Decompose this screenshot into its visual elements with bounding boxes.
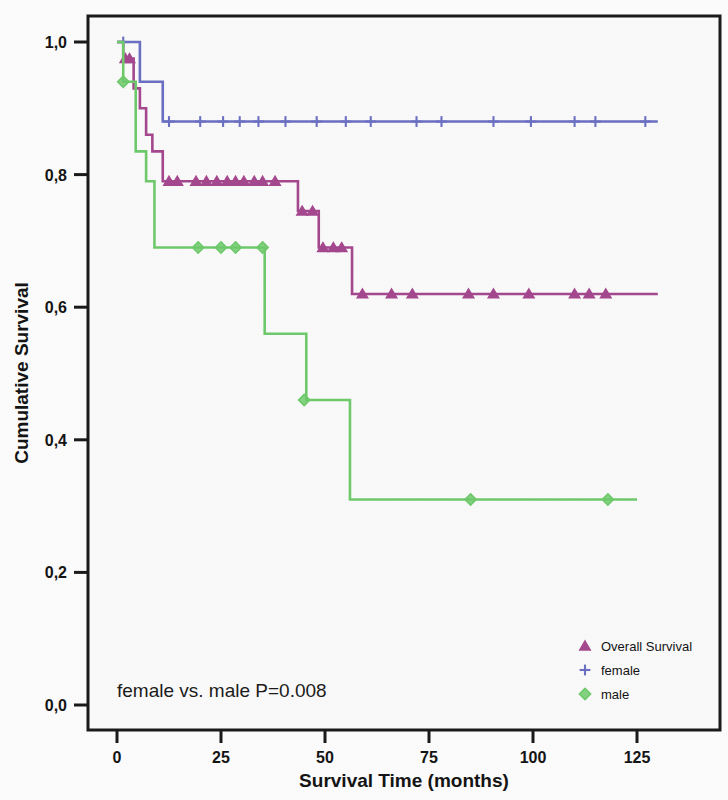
plot-area-background <box>88 16 720 730</box>
y-tick-label: 1,0 <box>45 34 67 51</box>
legend-label: Overall Survival <box>601 639 692 654</box>
y-tick-label: 0,0 <box>45 697 67 714</box>
x-tick-label: 125 <box>624 749 651 766</box>
kaplan-meier-chart: 0,00,20,40,60,81,0 0255075100125 Surviva… <box>0 0 728 800</box>
legend-label: male <box>601 687 629 702</box>
x-tick-label: 50 <box>316 749 334 766</box>
y-tick-label: 0,6 <box>45 299 67 316</box>
p-value-annotation: female vs. male P=0.008 <box>117 680 327 701</box>
y-axis-title: Cumulative Survival <box>11 282 32 464</box>
y-tick-label: 0,4 <box>45 432 67 449</box>
x-tick-label: 0 <box>113 749 122 766</box>
x-tick-label: 25 <box>212 749 230 766</box>
x-axis-ticks: 0255075100125 <box>113 730 651 766</box>
x-axis-title: Survival Time (months) <box>299 770 509 791</box>
x-tick-label: 100 <box>520 749 547 766</box>
y-tick-label: 0,8 <box>45 167 67 184</box>
y-axis-ticks: 0,00,20,40,60,81,0 <box>45 34 88 714</box>
x-tick-label: 75 <box>420 749 438 766</box>
legend-label: female <box>601 663 640 678</box>
survival-chart-figure: 0,00,20,40,60,81,0 0255075100125 Surviva… <box>0 0 728 800</box>
y-tick-label: 0,2 <box>45 564 67 581</box>
